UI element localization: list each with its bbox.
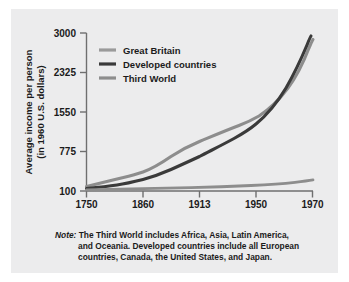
- note-line-1: The Third World includes Africa, Asia, L…: [79, 230, 289, 240]
- y-tick-label-2325: 2325: [54, 67, 77, 78]
- legend-label-great-britain: Great Britain: [123, 45, 181, 56]
- y-axis-label: Average income per person (in 1960 U.S. …: [23, 49, 46, 174]
- chart-legend: Great Britain Developed countries Third …: [99, 45, 216, 84]
- x-tick-label-1950: 1950: [245, 199, 268, 210]
- note-line-2: and Oceania. Developed countries include…: [55, 241, 327, 252]
- note-line-3: countries, Canada, the United States, an…: [55, 252, 327, 263]
- y-tick-label-775: 775: [59, 146, 76, 157]
- x-tick-label-1913: 1913: [188, 199, 211, 210]
- chart-figure: 3000 2325 1550 775 100 1750 1860 1913 19…: [11, 9, 338, 273]
- x-tick-label-1970: 1970: [301, 199, 324, 210]
- y-axis-label-line-2: (in 1960 U.S. dollars): [35, 65, 46, 158]
- y-tick-label-1550: 1550: [54, 107, 77, 118]
- x-tick-label-1860: 1860: [132, 199, 155, 210]
- y-tick-label-3000: 3000: [54, 28, 77, 39]
- legend-label-third-world: Third World: [123, 73, 176, 84]
- note-label: Note:: [55, 230, 76, 240]
- y-axis-label-line-1: Average income per person: [23, 49, 34, 174]
- note-line-1-wrapper: Note: The Third World includes Africa, A…: [55, 230, 327, 241]
- x-tick-label-1750: 1750: [75, 199, 98, 210]
- y-tick-label-100: 100: [59, 186, 76, 197]
- chart-note: Note: The Third World includes Africa, A…: [55, 230, 327, 264]
- legend-label-developed-countries: Developed countries: [123, 59, 216, 70]
